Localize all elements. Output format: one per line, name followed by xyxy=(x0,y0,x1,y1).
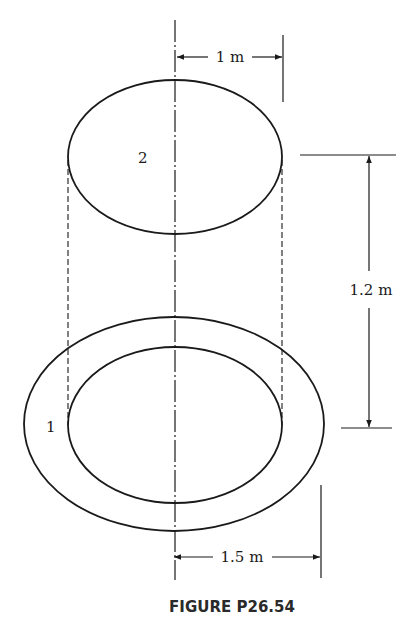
surface-2-label: 2 xyxy=(138,149,148,167)
dim-1m-label: 1 m xyxy=(216,48,245,66)
figure-caption: FIGURE P26.54 xyxy=(169,598,295,616)
surface-1-label: 1 xyxy=(46,418,56,436)
dim-1-2m-label: 1.2 m xyxy=(350,281,393,299)
surface-1-outer-edge xyxy=(24,317,324,531)
dim-1-5m-label: 1.5 m xyxy=(221,548,264,566)
figure-diagram: 1 m 1.2 m 1.5 m 2 1 FIGURE P26.54 xyxy=(0,0,417,636)
